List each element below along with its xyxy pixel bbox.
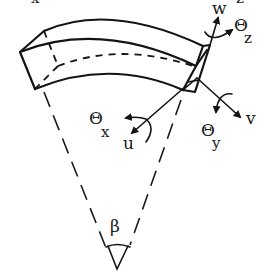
svg-text:z: z (236, 0, 244, 7)
label-v: v (245, 108, 256, 128)
curvature-cone (44, 92, 181, 269)
svg-text:x: x (31, 0, 40, 7)
label-theta-z-sub: z (244, 29, 252, 47)
label-u: u (123, 133, 134, 153)
w-axis (205, 18, 232, 45)
label-beta: β (110, 216, 120, 236)
label-theta-x-sub: x (101, 123, 110, 141)
v-axis (197, 78, 240, 117)
label-theta-y-sub: y (211, 134, 221, 152)
curved-beam-diagram: x z w (0, 0, 274, 280)
label-w: w (212, 0, 227, 18)
u-axis (126, 86, 186, 142)
curved-beam (20, 19, 210, 92)
